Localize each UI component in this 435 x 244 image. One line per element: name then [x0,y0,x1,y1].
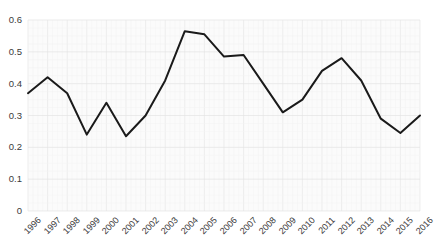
line-chart: 00.10.20.30.40.50.6 19961997199819992000… [0,0,433,244]
chart-canvas [0,0,433,244]
